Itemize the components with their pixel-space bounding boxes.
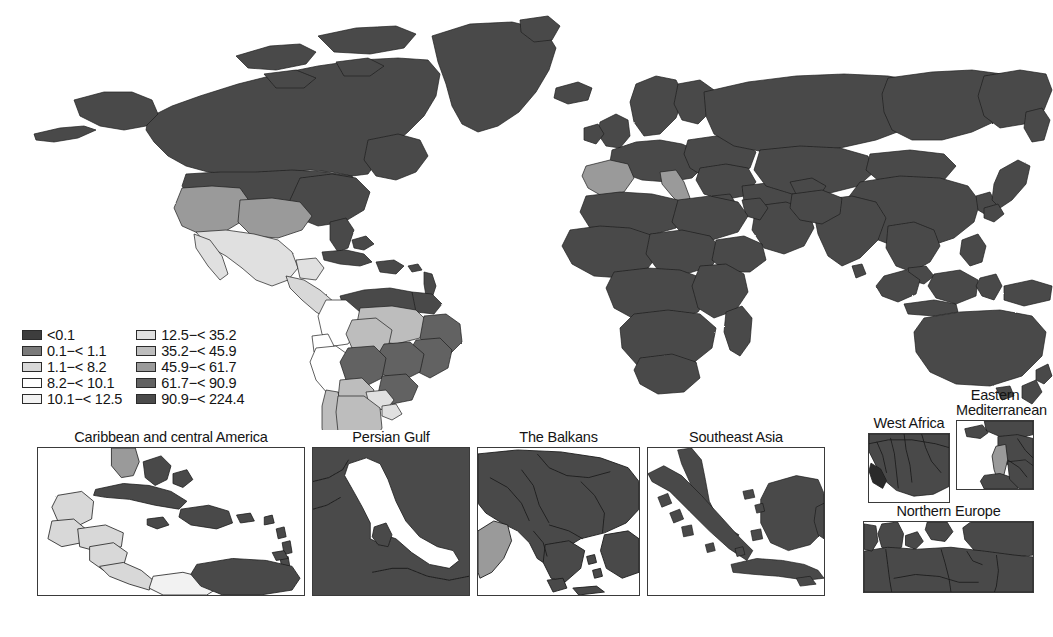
legend-entry: 61.7−< 90.9 <box>136 375 244 390</box>
legend-entry: <0.1 <box>22 327 122 342</box>
legend-label: 35.2−< 45.9 <box>161 344 236 358</box>
legend-entry: 45.9−< 61.7 <box>136 359 244 374</box>
inset-frame <box>956 420 1034 490</box>
region-sumatra-islands-3 <box>682 525 694 537</box>
inset-northern-europe: Northern Europe <box>863 504 1034 593</box>
legend-label: 10.1−< 12.5 <box>47 392 122 406</box>
region-lesser-antilles-a <box>264 515 274 525</box>
region-small-island-4 <box>735 547 745 557</box>
legend-label: 45.9−< 61.7 <box>161 360 236 374</box>
region-small-island-3 <box>751 529 763 541</box>
inset-frame <box>477 447 640 596</box>
legend-column-left: <0.1 0.1−< 1.1 1.1−< 8.2 8.2−< 10.1 10.1… <box>22 327 122 406</box>
inset-caribbean: Caribbean and central America <box>37 430 305 596</box>
legend-entry: 0.1−< 1.1 <box>22 343 122 358</box>
legend-swatch <box>136 330 156 340</box>
region-lesser-antilles-b <box>276 527 286 539</box>
legend-label: 1.1−< 8.2 <box>47 360 106 374</box>
inset-frame <box>863 521 1034 593</box>
inset-title: West Africa <box>868 416 950 431</box>
inset-southeast-asia: Southeast Asia <box>647 430 825 596</box>
region-borneo <box>761 476 824 551</box>
legend-entry: 10.1−< 12.5 <box>22 391 122 406</box>
legend: <0.1 0.1−< 1.1 1.1−< 8.2 8.2−< 10.1 10.1… <box>22 327 244 406</box>
legend-swatch <box>22 394 42 404</box>
legend-swatch <box>136 362 156 372</box>
inset-frame <box>312 447 470 596</box>
inset-frame <box>868 433 950 503</box>
inset-title: The Balkans <box>477 430 640 445</box>
legend-entry: 90.9−< 224.4 <box>136 391 244 406</box>
legend-label: <0.1 <box>47 328 75 342</box>
legend-entry: 35.2−< 45.9 <box>136 343 244 358</box>
region-germany-poland <box>864 547 1033 592</box>
legend-label: 8.2−< 10.1 <box>47 376 114 390</box>
legend-swatch <box>22 378 42 388</box>
legend-swatch <box>136 378 156 388</box>
inset-title: Southeast Asia <box>647 430 825 445</box>
region-small-island-1 <box>743 489 755 499</box>
inset-west-africa: West Africa <box>868 388 950 503</box>
inset-frame <box>647 447 825 596</box>
legend-label: 12.5−< 35.2 <box>161 328 236 342</box>
legend-swatch <box>22 346 42 356</box>
inset-title: Persian Gulf <box>312 430 470 445</box>
inset-balkans: The Balkans <box>477 430 640 596</box>
legend-swatch <box>136 346 156 356</box>
legend-entry: 8.2−< 10.1 <box>22 375 122 390</box>
region-small-island-5 <box>705 543 715 553</box>
legend-label: 90.9−< 224.4 <box>161 392 244 406</box>
legend-entry: 12.5−< 35.2 <box>136 327 244 342</box>
legend-swatch <box>22 330 42 340</box>
figure-root: <0.1 0.1−< 1.1 1.1−< 8.2 8.2−< 10.1 10.1… <box>0 0 1053 637</box>
region-aegean-island-2 <box>593 568 603 578</box>
legend-swatch <box>136 394 156 404</box>
region-small-island-2 <box>755 503 765 513</box>
inset-persian-gulf: Persian Gulf <box>312 430 470 596</box>
legend-label: 61.7−< 90.9 <box>161 376 236 390</box>
legend-column-right: 12.5−< 35.2 35.2−< 45.9 45.9−< 61.7 61.7… <box>136 327 244 406</box>
legend-swatch <box>22 362 42 372</box>
inset-title: Caribbean and central America <box>37 430 305 445</box>
legend-label: 0.1−< 1.1 <box>47 344 106 358</box>
legend-entry: 1.1−< 8.2 <box>22 359 122 374</box>
inset-title: Eastern Mediterranean <box>956 388 1034 418</box>
inset-eastern-mediterranean: Eastern Mediterranean <box>956 388 1034 490</box>
inset-frame <box>37 447 305 596</box>
region-aegean-island-1 <box>587 555 597 565</box>
inset-title: Northern Europe <box>863 504 1034 519</box>
